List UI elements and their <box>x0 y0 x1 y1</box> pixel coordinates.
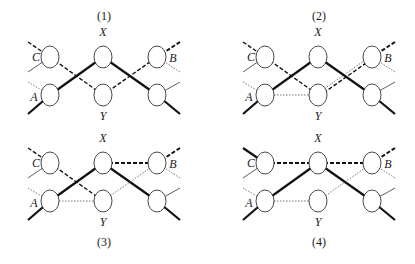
node-top_center <box>309 152 327 174</box>
node-left_top <box>41 46 59 68</box>
panel-caption: (3) <box>97 235 111 249</box>
node-label-y: Y <box>315 109 323 123</box>
node-right_top <box>148 152 166 174</box>
node-left_bottom <box>256 84 274 106</box>
node-left_top <box>256 46 274 68</box>
node-left_bottom <box>41 190 59 212</box>
node-label-c: C <box>247 50 256 64</box>
node-label-y: Y <box>100 109 108 123</box>
node-label-x: X <box>313 25 322 39</box>
node-label-b: B <box>384 51 392 65</box>
node-label-b: B <box>169 157 177 171</box>
node-right_top <box>363 46 381 68</box>
node-label-c: C <box>32 156 41 170</box>
node-label-y: Y <box>100 215 108 229</box>
node-label-b: B <box>384 157 392 171</box>
node-right_bottom <box>363 84 381 106</box>
node-bottom_center <box>309 84 327 106</box>
node-label-x: X <box>98 25 107 39</box>
node-label-a: A <box>244 196 253 210</box>
panel-caption: (1) <box>97 9 111 23</box>
node-bottom_center <box>94 190 112 212</box>
node-right_bottom <box>363 190 381 212</box>
panel-caption: (2) <box>312 9 326 23</box>
node-label-c: C <box>32 50 41 64</box>
node-top_center <box>94 152 112 174</box>
node-left_top <box>41 152 59 174</box>
node-label-x: X <box>313 131 322 145</box>
node-label-c: C <box>247 156 256 170</box>
node-label-a: A <box>29 196 38 210</box>
node-top_center <box>94 46 112 68</box>
node-label-x: X <box>98 131 107 145</box>
node-left_bottom <box>41 84 59 106</box>
panel-4: XYCAB(4) <box>243 131 395 249</box>
node-label-a: A <box>244 90 253 104</box>
node-left_top <box>256 152 274 174</box>
node-right_top <box>148 46 166 68</box>
panel-3: XYCAB(3) <box>28 131 180 249</box>
panel-caption: (4) <box>312 235 326 249</box>
panel-1: XYCAB(1) <box>28 9 180 123</box>
node-bottom_center <box>94 84 112 106</box>
node-bottom_center <box>309 190 327 212</box>
node-right_top <box>363 152 381 174</box>
node-left_bottom <box>256 190 274 212</box>
network-diagram: XYCAB(1)XYCAB(2)XYCAB(3)XYCAB(4) <box>0 0 415 264</box>
node-right_bottom <box>148 84 166 106</box>
node-top_center <box>309 46 327 68</box>
node-right_bottom <box>148 190 166 212</box>
node-label-a: A <box>29 90 38 104</box>
node-label-b: B <box>169 51 177 65</box>
panel-2: XYCAB(2) <box>243 9 395 123</box>
node-label-y: Y <box>315 215 323 229</box>
